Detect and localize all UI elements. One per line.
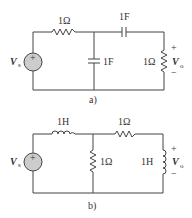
vo-plus-b: + [171,143,177,154]
label-resistor-b-shunt: 1Ω [100,156,112,167]
label-capacitor-a-series: 1F [119,11,130,22]
vo-plus-a: + [171,42,177,53]
resistor-1ohm-shunt [90,150,96,172]
label-resistor-a-series: 1Ω [58,15,70,26]
inductor-1h-series [52,131,75,134]
resistor-1ohm-series [115,131,135,137]
label-inductor-b-series: 1H [57,116,69,127]
label-resistor-b-series: 1Ω [118,116,130,127]
inductor-1h-load [163,150,166,174]
label-resistor-a-load: 1Ω [143,56,155,67]
label-vo-sub-a: o [180,62,184,70]
caption-a: a) [89,94,97,106]
label-vo-sub-b: o [180,162,184,170]
vo-minus-a: − [171,67,177,78]
resistor-1ohm-series [52,29,75,35]
resistor-1ohm-load [161,50,167,72]
circuit-diagrams: 1Ω 1F 1F 1Ω + V s + V o − a) 1H 1Ω 1Ω 1H… [0,0,192,218]
label-vo-a: V [172,56,180,67]
vo-minus-b: − [171,168,177,179]
label-capacitor-a-shunt: 1F [103,56,114,67]
label-vs-sub-b: s [18,161,21,169]
source-plus-b: + [30,152,36,163]
caption-b: b) [88,200,96,212]
label-vs-sub-a: s [18,61,21,69]
label-vs-a: V [10,56,18,67]
label-inductor-b-load: 1H [141,156,153,167]
source-plus-a: + [30,52,36,63]
label-vo-b: V [172,156,180,167]
label-vs-b: V [10,156,18,167]
